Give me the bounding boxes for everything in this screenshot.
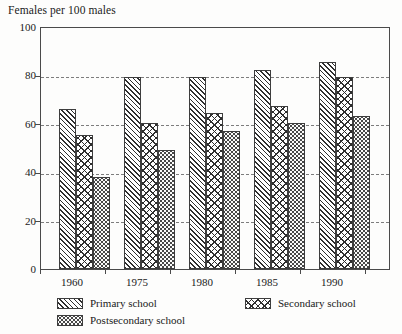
- y-tick-label-0: 0: [4, 264, 36, 275]
- x-tick-mark-0: [40, 270, 41, 274]
- legend-entry-secondary-school: Secondary school: [245, 298, 356, 309]
- plot-area: [40, 27, 390, 270]
- bar-postsecondary-1975: [158, 150, 175, 269]
- bar-secondary-1980: [206, 113, 223, 269]
- chart-figure: Females per 100 males: [0, 0, 402, 334]
- legend-swatch-cross-hatch-icon: [245, 298, 271, 309]
- bar-primary-1990: [319, 62, 336, 269]
- bar-primary-1960: [59, 109, 76, 269]
- legend-row-2: Postsecondary school: [57, 315, 397, 332]
- legend-label-secondary-school: Secondary school: [278, 298, 356, 309]
- y-tick-label-20: 20: [4, 216, 36, 227]
- x-tick-label-1975: 1975: [107, 276, 167, 288]
- x-tick-label-1985: 1985: [237, 276, 297, 288]
- bar-primary-1975: [124, 77, 141, 269]
- legend-entry-postsecondary-school: Postsecondary school: [57, 315, 185, 326]
- x-tick-mark-2: [170, 270, 171, 274]
- x-tick-label-1980: 1980: [172, 276, 232, 288]
- bar-postsecondary-1980: [223, 131, 240, 270]
- legend-label-primary-school: Primary school: [90, 298, 157, 309]
- x-tick-mark-1: [105, 270, 106, 274]
- bar-postsecondary-1960: [93, 177, 110, 269]
- bar-primary-1985: [254, 70, 271, 269]
- bar-postsecondary-1990: [353, 116, 370, 269]
- bars-layer: [41, 28, 389, 269]
- y-tick-label-80: 80: [4, 70, 36, 81]
- legend: Primary school Secondary school Postseco…: [57, 298, 397, 332]
- bar-secondary-1975: [141, 123, 158, 269]
- bar-secondary-1990: [336, 77, 353, 269]
- x-tick-mark-3: [235, 270, 236, 274]
- bar-primary-1980: [189, 77, 206, 269]
- legend-swatch-stipple-dots-icon: [57, 315, 83, 326]
- legend-row-1: Primary school Secondary school: [57, 298, 397, 315]
- legend-label-postsecondary-school: Postsecondary school: [90, 315, 185, 326]
- bar-secondary-1985: [271, 106, 288, 269]
- bar-secondary-1960: [76, 135, 93, 269]
- x-tick-label-1960: 1960: [42, 276, 102, 288]
- y-tick-label-40: 40: [4, 167, 36, 178]
- x-tick-mark-5: [365, 270, 366, 274]
- legend-swatch-diagonal-hatch-icon: [57, 298, 83, 309]
- y-tick-label-60: 60: [4, 119, 36, 130]
- chart-title: Females per 100 males: [8, 4, 116, 16]
- bar-postsecondary-1985: [288, 123, 305, 269]
- x-tick-label-1990: 1990: [302, 276, 362, 288]
- legend-entry-primary-school: Primary school: [57, 298, 157, 309]
- y-tick-label-100: 100: [4, 22, 36, 33]
- x-tick-mark-4: [300, 270, 301, 274]
